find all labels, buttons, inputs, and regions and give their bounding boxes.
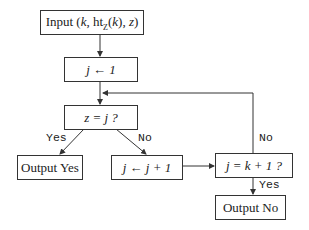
edge-label-yes-1: Yes — [46, 131, 67, 144]
increment-node: j ← j + 1 — [111, 155, 183, 180]
edge-label-no-1: No — [138, 131, 152, 144]
test-z-equals-j-label: z = j ? — [84, 110, 118, 126]
output-no-label: Output No — [223, 200, 278, 216]
init-node-label: j ← 1 — [86, 62, 116, 78]
input-node: Input (k, htZ(k), z) — [40, 10, 144, 35]
input-node-label: Input (k, htZ(k), z) — [46, 14, 139, 32]
test-j-equals-k-plus-1-node: j = k + 1 ? — [215, 153, 293, 178]
increment-node-label: j ← j + 1 — [123, 160, 172, 176]
edge-label-yes-2: Yes — [259, 178, 280, 191]
test-j-equals-k-plus-1-label: j = k + 1 ? — [226, 158, 282, 174]
init-node: j ← 1 — [64, 57, 138, 82]
output-no-node: Output No — [215, 195, 286, 220]
output-yes-node: Output Yes — [17, 155, 83, 180]
edge-label-no-2: No — [259, 131, 273, 144]
test-z-equals-j-node: z = j ? — [64, 105, 138, 130]
output-yes-label: Output Yes — [21, 160, 79, 176]
